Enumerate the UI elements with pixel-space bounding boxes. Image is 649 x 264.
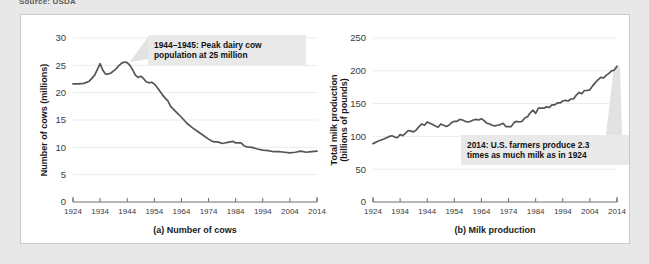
chart-b-callout: 2014: U.S. farmers produce 2.3times as m… [461, 135, 629, 165]
svg-text:1944: 1944 [418, 207, 436, 216]
chart-b-xticklabels: 1924193419441954196419741984199420042014 [364, 207, 626, 216]
svg-text:2004: 2004 [281, 207, 299, 216]
svg-text:250: 250 [350, 32, 366, 43]
svg-text:1964: 1964 [173, 207, 191, 216]
svg-text:150: 150 [350, 98, 366, 109]
svg-text:1994: 1994 [554, 207, 572, 216]
svg-text:5: 5 [61, 169, 66, 180]
svg-text:50: 50 [355, 164, 366, 175]
chart-a-axes [73, 197, 317, 202]
svg-text:25: 25 [55, 60, 66, 71]
svg-text:2014: 2014 [608, 207, 626, 216]
svg-text:100: 100 [350, 131, 366, 142]
chart-a-caption: (a) Number of cows [153, 225, 237, 235]
chart-milk-production: 050100150200250 192419341944195419641974… [321, 15, 631, 245]
chart-b-caption: (b) Milk production [455, 225, 536, 235]
svg-text:2014: U.S. farmers produce 2.3: 2014: U.S. farmers produce 2.3 [467, 140, 590, 150]
svg-text:200: 200 [350, 65, 366, 76]
chart-b-svg: 050100150200250 192419341944195419641974… [321, 15, 631, 245]
svg-text:1974: 1974 [200, 207, 218, 216]
chart-b-ylabel: Total milk production(billions of pounds… [329, 75, 350, 166]
svg-text:1934: 1934 [391, 207, 409, 216]
svg-text:2004: 2004 [581, 207, 599, 216]
svg-text:1944: 1944 [118, 207, 136, 216]
svg-text:1964: 1964 [473, 207, 491, 216]
chart-b-dataline [373, 66, 617, 143]
chart-number-of-cows: 051015202530 192419341944195419641974198… [21, 15, 331, 245]
chart-a-dataline [73, 62, 317, 153]
svg-text:30: 30 [55, 32, 66, 43]
svg-text:1944–1945: Peak dairy cow: 1944–1945: Peak dairy cow [154, 40, 262, 50]
figure-panel: 051015202530 192419341944195419641974198… [20, 14, 630, 244]
svg-text:1924: 1924 [364, 207, 382, 216]
svg-text:0: 0 [361, 196, 366, 207]
svg-text:population at 25 million: population at 25 million [154, 50, 248, 60]
svg-text:1984: 1984 [527, 207, 545, 216]
svg-text:times as much milk as in 1924: times as much milk as in 1924 [467, 150, 587, 160]
chart-b-yticklabels: 050100150200250 [350, 32, 366, 207]
svg-text:1994: 1994 [254, 207, 272, 216]
svg-text:(billions of pounds): (billions of pounds) [339, 78, 349, 161]
svg-text:1954: 1954 [445, 207, 463, 216]
svg-text:1934: 1934 [91, 207, 109, 216]
svg-text:1974: 1974 [500, 207, 518, 216]
source-note: Source: USDA [19, 0, 76, 6]
chart-a-yticklabels: 051015202530 [55, 32, 66, 207]
svg-text:10: 10 [55, 142, 66, 153]
chart-a-xticklabels: 1924193419441954196419741984199420042014 [64, 207, 326, 216]
svg-text:1984: 1984 [227, 207, 245, 216]
chart-a-leader [130, 37, 148, 62]
svg-text:1954: 1954 [145, 207, 163, 216]
svg-text:20: 20 [55, 87, 66, 98]
svg-text:15: 15 [55, 114, 66, 125]
svg-text:Total milk production: Total milk production [329, 75, 339, 166]
chart-a-svg: 051015202530 192419341944195419641974198… [21, 15, 331, 245]
chart-a-callout: 1944–1945: Peak dairy cowpopulation at 2… [148, 35, 306, 65]
svg-text:Number of cows (millions): Number of cows (millions) [39, 64, 49, 177]
chart-b-leader [606, 66, 622, 135]
chart-b-axes [373, 197, 617, 202]
svg-text:1924: 1924 [64, 207, 82, 216]
svg-text:0: 0 [61, 196, 66, 207]
chart-a-ylabel: Number of cows (millions) [39, 64, 49, 177]
